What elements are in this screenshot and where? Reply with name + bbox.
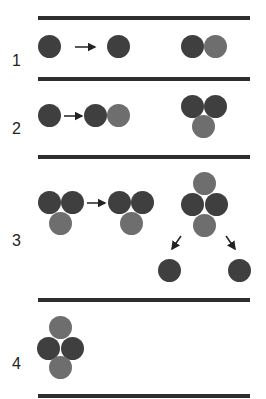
arrow-down-left-icon (172, 236, 181, 249)
arrow-down-right-icon (226, 236, 235, 249)
arrows-layer (0, 0, 266, 399)
